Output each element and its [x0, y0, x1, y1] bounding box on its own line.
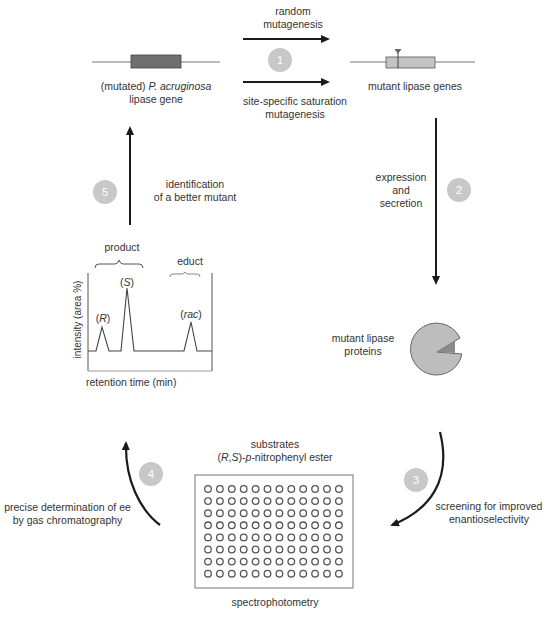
peak-s-label: (S)	[116, 276, 138, 289]
product-label: product	[92, 241, 152, 254]
mutant-gene-label: mutant lipase genes	[355, 80, 475, 93]
mutant-protein-icon	[410, 323, 462, 375]
step-2-label: expression and secretion	[370, 171, 432, 210]
mutant-gene-icon	[350, 49, 475, 68]
mutant-protein-label: mutant lipase proteins	[328, 332, 398, 358]
step-3-badge: 3	[404, 468, 428, 492]
step-2-badge: 2	[447, 178, 471, 202]
step-5-label: identification of a better mutant	[145, 178, 245, 204]
step-4-badge: 4	[139, 462, 163, 486]
mutation-marker-icon	[395, 49, 402, 54]
plate-caption: spectrophotometry	[200, 596, 350, 609]
step-3-label: screening for improved enantioselectivit…	[430, 500, 548, 526]
step-4-label: precise determination of ee by gas chrom…	[0, 501, 135, 527]
plate-title: substrates (R,S)-p-nitrophenyl ester	[200, 438, 350, 464]
step-1-top-label: random mutagenesis	[243, 5, 343, 31]
educt-label: educt	[164, 255, 216, 268]
product-brace-icon	[95, 260, 143, 268]
wildtype-gene-icon	[92, 55, 220, 68]
educt-brace-icon	[170, 272, 200, 277]
step-1-bottom-label: site-specific saturation mutagenesis	[225, 95, 365, 121]
peak-rac-label: (rac)	[178, 308, 204, 321]
step-1-badge: 1	[268, 48, 292, 72]
chromatogram-y-label: intensity (area %)	[71, 270, 84, 370]
step-5-badge: 5	[93, 180, 117, 204]
wildtype-gene-label: (mutated) P. acruginosa lipase gene	[90, 80, 222, 106]
chromatogram-x-label: retention time (min)	[86, 376, 186, 389]
peak-r-label: (R)	[92, 312, 114, 325]
microtiter-plate	[195, 475, 353, 588]
